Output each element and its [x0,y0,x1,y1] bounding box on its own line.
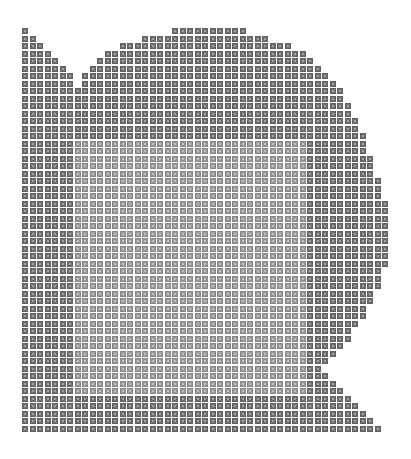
grid-cell [157,313,163,319]
grid-cell [180,178,186,184]
grid-cell [255,201,261,207]
grid-cell [97,178,103,184]
grid-cell [142,283,148,289]
grid-cell [97,118,103,124]
grid-cell [75,163,81,169]
grid-cell [135,403,141,409]
grid-cell [367,178,373,184]
grid-cell [150,343,156,349]
grid-cell [217,336,223,342]
grid-cell [337,291,343,297]
grid-cell [285,66,291,72]
grid-cell [202,96,208,102]
grid-cell [135,388,141,394]
grid-cell [75,253,81,259]
grid-cell [225,328,231,334]
grid-cell [180,276,186,282]
grid-cell [240,141,246,147]
grid-cell [210,388,216,394]
grid-cell [67,343,73,349]
grid-cell [210,291,216,297]
grid-cell [37,298,43,304]
grid-cell [127,201,133,207]
grid-cell [22,291,28,297]
grid-cell [180,163,186,169]
grid-cell [172,231,178,237]
grid-cell [112,103,118,109]
grid-cell [292,208,298,214]
grid-cell [255,411,261,417]
grid-cell [37,261,43,267]
grid-cell [120,411,126,417]
grid-cell [352,268,358,274]
grid-cell [330,426,336,432]
grid-cell [112,396,118,402]
grid-cell [157,351,163,357]
grid-cell [172,253,178,259]
grid-cell [300,418,306,424]
grid-cell [330,133,336,139]
grid-cell [37,403,43,409]
grid-cell [300,298,306,304]
grid-cell [135,238,141,244]
grid-cell [210,313,216,319]
grid-cell [187,411,193,417]
grid-cell [217,81,223,87]
grid-cell [165,388,171,394]
grid-cell [367,418,373,424]
grid-cell [262,276,268,282]
grid-cell [330,81,336,87]
grid-cell [37,103,43,109]
grid-cell [330,388,336,394]
grid-cell [315,306,321,312]
grid-cell [315,103,321,109]
grid-cell [52,291,58,297]
grid-cell [375,186,381,192]
grid-cell [30,163,36,169]
grid-cell [240,51,246,57]
grid-cell [75,193,81,199]
grid-cell [270,426,276,432]
grid-cell [150,178,156,184]
grid-cell [187,343,193,349]
grid-cell [300,373,306,379]
grid-cell [75,156,81,162]
grid-cell [217,246,223,252]
grid-cell [225,43,231,49]
grid-cell [225,313,231,319]
grid-cell [157,246,163,252]
grid-cell [157,328,163,334]
grid-cell [150,291,156,297]
grid-cell [195,373,201,379]
grid-cell [82,103,88,109]
grid-cell [330,246,336,252]
grid-cell [337,313,343,319]
grid-cell [300,163,306,169]
grid-cell [142,96,148,102]
grid-cell [330,156,336,162]
grid-cell [195,223,201,229]
grid-cell [22,358,28,364]
grid-cell [22,268,28,274]
grid-cell [225,253,231,259]
grid-cell [180,51,186,57]
grid-cell [67,336,73,342]
grid-cell [277,231,283,237]
grid-cell [270,231,276,237]
grid-cell [75,381,81,387]
grid-cell [120,388,126,394]
grid-cell [75,238,81,244]
grid-cell [165,73,171,79]
grid-cell [240,66,246,72]
grid-cell [262,403,268,409]
grid-cell [315,156,321,162]
grid-cell [277,336,283,342]
grid-cell [45,81,51,87]
grid-cell [195,298,201,304]
grid-cell [330,418,336,424]
grid-cell [52,396,58,402]
grid-cell [45,73,51,79]
grid-cell [30,321,36,327]
grid-cell [52,81,58,87]
grid-cell [112,403,118,409]
